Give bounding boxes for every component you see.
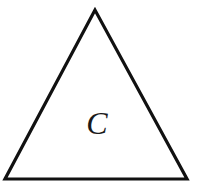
triangle-shape [5, 10, 187, 179]
triangle-label: C [86, 105, 108, 141]
triangle-diagram: C [0, 0, 198, 192]
